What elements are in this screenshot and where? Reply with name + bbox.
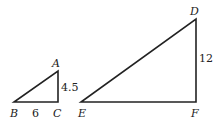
triangle-def — [81, 19, 196, 102]
side-label-df: 12 — [199, 52, 213, 65]
vertex-label-e: E — [77, 107, 86, 120]
triangle-abc — [14, 71, 58, 102]
side-label-ac: 4.5 — [61, 81, 79, 94]
vertex-label-d: D — [189, 5, 199, 18]
vertex-label-f: F — [190, 107, 199, 120]
diagram-canvas: A B C 6 4.5 D E F 12 — [0, 0, 219, 121]
side-label-bc: 6 — [32, 107, 39, 120]
vertex-label-a: A — [51, 57, 60, 70]
vertex-label-b: B — [9, 107, 18, 120]
vertex-label-c: C — [53, 107, 62, 120]
